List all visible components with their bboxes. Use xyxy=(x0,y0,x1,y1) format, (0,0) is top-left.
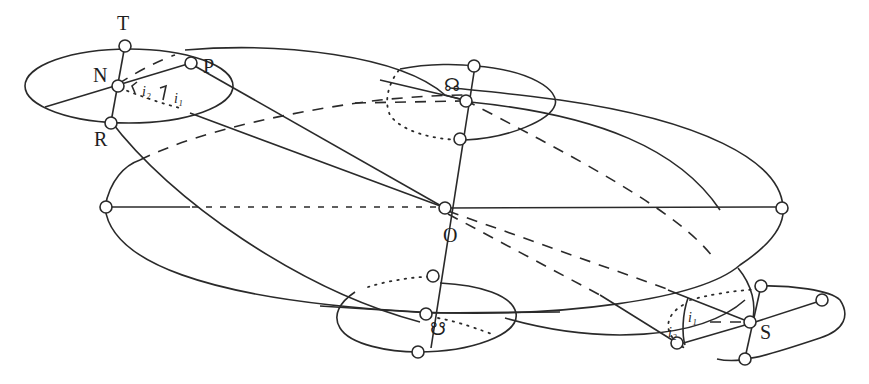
line-to-S-lower-node xyxy=(600,295,677,343)
label-P: P xyxy=(203,55,214,77)
node-P xyxy=(185,57,197,69)
dashed-O-S-upper xyxy=(448,211,670,290)
node-descending-top xyxy=(427,270,439,282)
node-ascending-bottom xyxy=(454,133,466,145)
angle-bracket-i2-N xyxy=(132,82,137,93)
label-S: S xyxy=(760,321,771,343)
polar-axis xyxy=(431,66,475,348)
label-N: N xyxy=(93,64,107,86)
node-S-top xyxy=(755,280,767,292)
label-N-i2: i₂ xyxy=(142,84,151,99)
label-S-i2: i₂ xyxy=(668,325,677,340)
diagram-canvas: T N P R O S ☊ ☋ i₂ i₁ i₁ i₂ xyxy=(0,0,869,384)
node-S-bottom xyxy=(739,353,751,365)
label-descending-node: ☋ xyxy=(430,319,446,339)
right-radius xyxy=(446,207,783,208)
angle-bracket-i1-N xyxy=(160,86,166,100)
node-N xyxy=(112,80,124,92)
node-left xyxy=(100,201,112,213)
label-R: R xyxy=(94,128,108,150)
orbit-diagram: T N P R O S ☊ ☋ i₂ i₁ i₁ i₂ xyxy=(0,0,869,384)
node-S xyxy=(744,316,756,328)
label-T: T xyxy=(117,12,129,34)
label-N-i1: i₁ xyxy=(174,91,183,106)
node-T xyxy=(119,40,131,52)
dashed-O-S-lower xyxy=(448,214,600,295)
node-descending-bottom xyxy=(412,346,424,358)
node-ascending-top xyxy=(468,60,480,72)
node-ascending xyxy=(460,95,472,107)
line-to-S xyxy=(668,290,752,323)
main-ellipse xyxy=(105,88,783,313)
label-S-i1: i₁ xyxy=(688,310,697,325)
S-to-right-node xyxy=(752,300,823,323)
node-O xyxy=(439,202,451,214)
node-S-right xyxy=(816,294,828,306)
node-right xyxy=(776,202,788,214)
label-O: O xyxy=(443,224,457,246)
label-ascending-node: ☊ xyxy=(444,75,460,95)
N-ellipse xyxy=(25,45,233,123)
